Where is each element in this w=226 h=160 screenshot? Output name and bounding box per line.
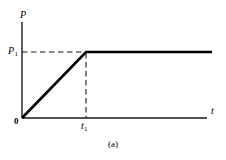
y-axis-label: P (20, 10, 26, 20)
x-tick-label-t1: t1 (81, 121, 88, 133)
origin-label: 0 (14, 117, 19, 126)
y-tick-label-p1-subscript: 1 (14, 50, 18, 58)
figure-container: P P1 0 t1 t (a) (0, 0, 226, 160)
plot-canvas (0, 0, 226, 160)
figure-caption: (a) (0, 140, 226, 149)
x-axis-label: t (211, 106, 214, 116)
x-tick-label-t1-subscript: 1 (84, 125, 88, 133)
y-tick-label-p1: P1 (8, 46, 18, 58)
pressure-curve (22, 52, 212, 118)
